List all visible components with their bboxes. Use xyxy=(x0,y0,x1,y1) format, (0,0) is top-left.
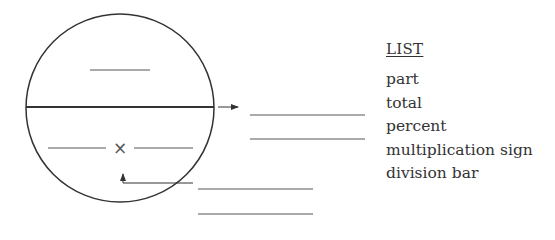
list-item: percent xyxy=(386,115,533,139)
multiplication-sign-icon: × xyxy=(113,138,127,158)
word-list: LIST part total percent multiplication s… xyxy=(386,40,533,186)
list-title: LIST xyxy=(386,40,533,58)
list-item: division bar xyxy=(386,162,533,186)
list-item: part xyxy=(386,68,533,92)
list-item: multiplication sign xyxy=(386,139,533,163)
list-item: total xyxy=(386,92,533,116)
